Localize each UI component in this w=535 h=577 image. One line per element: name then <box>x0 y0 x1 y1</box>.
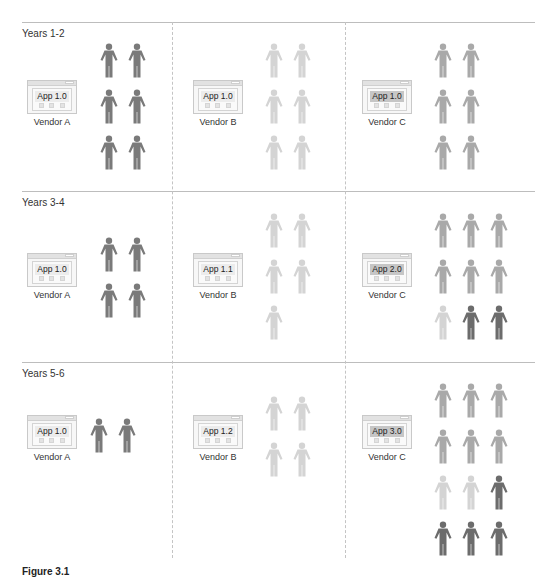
user-group <box>263 212 313 340</box>
person-icon <box>126 134 148 170</box>
person-icon <box>263 42 285 78</box>
person-icon <box>263 258 285 294</box>
person-icon <box>88 417 110 453</box>
person-icon <box>460 134 482 170</box>
person-icon <box>460 42 482 78</box>
person-icon <box>291 441 313 477</box>
person-icon <box>432 428 454 464</box>
person-icon <box>98 236 120 272</box>
person-icon <box>432 382 454 418</box>
person-icon <box>98 88 120 124</box>
vendor-label: Vendor C <box>362 452 412 462</box>
app-version-label: App 1.0 <box>370 91 404 102</box>
person-icon <box>291 42 313 78</box>
app-version-label: App 1.0 <box>35 426 69 437</box>
period-divider-3 <box>22 362 535 363</box>
app-window: App 1.0 Vendor A <box>27 80 77 127</box>
vendor-label: Vendor A <box>27 290 77 300</box>
person-icon <box>432 474 454 510</box>
user-group <box>98 236 148 318</box>
user-group <box>432 212 510 340</box>
app-window: App 3.0 Vendor C <box>362 415 412 462</box>
person-icon <box>460 88 482 124</box>
person-icon <box>432 304 454 340</box>
app-version-label: App 1.1 <box>201 264 235 275</box>
app-window: App 1.0 Vendor A <box>27 253 77 300</box>
person-icon <box>291 258 313 294</box>
vendor-label: Vendor B <box>193 117 243 127</box>
person-icon <box>263 134 285 170</box>
person-icon <box>460 304 482 340</box>
user-group <box>98 42 148 170</box>
person-icon <box>488 520 510 556</box>
person-icon <box>263 304 285 340</box>
app-version-label: App 2.0 <box>370 264 404 275</box>
person-icon <box>432 212 454 248</box>
person-icon <box>98 134 120 170</box>
person-icon <box>263 212 285 248</box>
person-icon <box>432 520 454 556</box>
person-icon <box>126 88 148 124</box>
period-label-2: Years 3-4 <box>22 197 64 208</box>
person-icon <box>432 42 454 78</box>
app-version-label: App 1.0 <box>35 264 69 275</box>
person-icon <box>460 428 482 464</box>
person-icon <box>291 212 313 248</box>
person-icon <box>460 520 482 556</box>
vendor-label: Vendor A <box>27 452 77 462</box>
person-icon <box>460 382 482 418</box>
person-icon <box>291 134 313 170</box>
vendor-label: Vendor B <box>193 290 243 300</box>
figure-caption: Figure 3.1 <box>22 566 69 577</box>
app-window: App 1.0 Vendor B <box>193 80 243 127</box>
user-group <box>88 417 138 453</box>
period-label-1: Years 1-2 <box>22 28 64 39</box>
person-icon <box>126 282 148 318</box>
user-group <box>432 42 482 170</box>
person-icon <box>126 42 148 78</box>
person-icon <box>98 282 120 318</box>
app-window: App 2.0 Vendor C <box>362 253 412 300</box>
period-label-3: Years 5-6 <box>22 368 64 379</box>
app-version-label: App 3.0 <box>370 426 404 437</box>
person-icon <box>488 474 510 510</box>
person-icon <box>488 258 510 294</box>
person-icon <box>432 134 454 170</box>
person-icon <box>291 395 313 431</box>
person-icon <box>432 88 454 124</box>
person-icon <box>460 212 482 248</box>
period-divider-2 <box>22 191 535 192</box>
person-icon <box>432 258 454 294</box>
period-divider-1 <box>22 22 535 23</box>
person-icon <box>291 88 313 124</box>
person-icon <box>263 441 285 477</box>
vendor-label: Vendor A <box>27 117 77 127</box>
person-icon <box>488 382 510 418</box>
person-icon <box>488 428 510 464</box>
vendor-label: Vendor C <box>362 290 412 300</box>
person-icon <box>126 236 148 272</box>
person-icon <box>263 88 285 124</box>
person-icon <box>460 258 482 294</box>
person-icon <box>460 474 482 510</box>
vendor-label: Vendor B <box>193 452 243 462</box>
app-version-label: App 1.2 <box>201 426 235 437</box>
person-icon <box>488 304 510 340</box>
app-window: App 1.1 Vendor B <box>193 253 243 300</box>
app-version-label: App 1.0 <box>35 91 69 102</box>
app-version-label: App 1.0 <box>201 91 235 102</box>
user-group <box>263 395 313 477</box>
app-window: App 1.2 Vendor B <box>193 415 243 462</box>
person-icon <box>116 417 138 453</box>
app-window: App 1.0 Vendor A <box>27 415 77 462</box>
app-window: App 1.0 Vendor C <box>362 80 412 127</box>
vendor-label: Vendor C <box>362 117 412 127</box>
person-icon <box>98 42 120 78</box>
column-divider-2 <box>345 22 346 558</box>
user-group <box>263 42 313 170</box>
user-group <box>432 382 510 556</box>
person-icon <box>488 212 510 248</box>
column-divider-1 <box>172 22 173 558</box>
person-icon <box>263 395 285 431</box>
